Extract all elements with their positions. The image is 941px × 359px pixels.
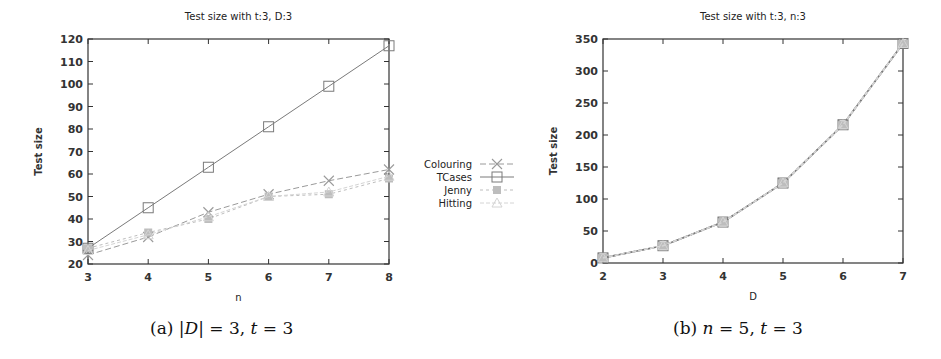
caption-b-n: n bbox=[703, 318, 714, 338]
y-tick-label: 350 bbox=[575, 33, 598, 46]
x-tick-label: 7 bbox=[325, 271, 333, 284]
series-colouring bbox=[598, 38, 908, 262]
legend-label: Jenny bbox=[443, 185, 472, 196]
legend: ColouringTCasesJennyHitting bbox=[424, 159, 514, 209]
y-tick-label: 120 bbox=[60, 33, 83, 46]
x-tick-label: 5 bbox=[779, 270, 787, 283]
filled-square-marker-icon bbox=[493, 186, 501, 194]
series-tcases bbox=[83, 41, 394, 254]
x-tick-label: 3 bbox=[659, 270, 667, 283]
legend-item-jenny: Jenny bbox=[443, 185, 514, 196]
y-tick-label: 100 bbox=[575, 193, 598, 206]
y-tick-label: 50 bbox=[583, 225, 599, 238]
caption-a-D: |D| bbox=[179, 318, 204, 338]
y-tick-label: 300 bbox=[575, 65, 598, 78]
y-tick-label: 0 bbox=[590, 257, 598, 270]
caption-b-label: (b) bbox=[673, 318, 697, 338]
legend-item-colouring: Colouring bbox=[424, 159, 514, 170]
chart-a: Test size with t:3, D:320304050607080901… bbox=[33, 11, 394, 303]
chart-b: Test size with t:3, n:305010015020025030… bbox=[548, 11, 908, 302]
legend-label: Hitting bbox=[438, 198, 472, 209]
legend-label: TCases bbox=[436, 172, 472, 183]
y-tick-label: 100 bbox=[60, 78, 83, 91]
series-jenny bbox=[84, 175, 393, 253]
y-tick-label: 50 bbox=[68, 191, 84, 204]
x-tick-label: 5 bbox=[205, 271, 213, 284]
x-tick-label: 3 bbox=[84, 271, 92, 284]
series-line bbox=[603, 43, 903, 257]
legend-item-hitting: Hitting bbox=[438, 198, 514, 209]
y-axis-label: Test size bbox=[33, 127, 44, 176]
series-line bbox=[603, 43, 903, 257]
series-line bbox=[603, 43, 903, 257]
y-tick-label: 110 bbox=[60, 56, 83, 69]
x-tick-label: 6 bbox=[839, 270, 847, 283]
series-jenny bbox=[599, 39, 907, 261]
series-hitting bbox=[598, 38, 908, 261]
caption-a-label: (a) bbox=[150, 318, 173, 338]
y-tick-label: 70 bbox=[68, 146, 84, 159]
y-tick-label: 200 bbox=[575, 129, 598, 142]
x-tick-label: 4 bbox=[719, 270, 727, 283]
figure-canvas: Test size with t:3, D:320304050607080901… bbox=[0, 0, 941, 359]
series-tcases bbox=[598, 38, 908, 262]
caption-b-eq2: = 3 bbox=[767, 318, 803, 338]
x-tick-label: 4 bbox=[144, 271, 152, 284]
y-axis-label: Test size bbox=[548, 127, 559, 176]
caption-b-eq1: = 5, bbox=[714, 318, 761, 338]
y-tick-label: 30 bbox=[68, 236, 84, 249]
plot-frame bbox=[88, 39, 389, 264]
x-tick-label: 8 bbox=[385, 271, 393, 284]
legend-label: Colouring bbox=[424, 159, 472, 170]
caption-a-eq1: = 3, bbox=[204, 318, 251, 338]
series-hitting bbox=[83, 171, 394, 254]
y-tick-label: 20 bbox=[68, 258, 84, 271]
series-line bbox=[88, 176, 389, 250]
series-colouring bbox=[83, 165, 394, 261]
x-tick-label: 6 bbox=[265, 271, 273, 284]
y-tick-label: 80 bbox=[68, 123, 84, 136]
caption-a: (a) |D| = 3, t = 3 bbox=[150, 318, 293, 338]
y-tick-label: 250 bbox=[575, 97, 598, 110]
caption-a-eq2: = 3 bbox=[257, 318, 293, 338]
x-axis-label: n bbox=[235, 292, 241, 303]
series-line bbox=[88, 170, 389, 256]
chart-title: Test size with t:3, D:3 bbox=[184, 11, 292, 22]
caption-b: (b) n = 5, t = 3 bbox=[673, 318, 803, 338]
y-tick-label: 90 bbox=[68, 101, 84, 114]
chart-title: Test size with t:3, n:3 bbox=[699, 11, 806, 22]
x-axis-label: D bbox=[749, 291, 757, 302]
y-tick-label: 150 bbox=[575, 161, 598, 174]
legend-item-tcases: TCases bbox=[436, 172, 514, 183]
x-tick-label: 7 bbox=[899, 270, 907, 283]
x-tick-label: 2 bbox=[599, 270, 607, 283]
y-tick-label: 40 bbox=[68, 213, 84, 226]
series-line bbox=[603, 43, 903, 257]
plot-frame bbox=[603, 39, 903, 263]
series-line bbox=[88, 179, 389, 249]
y-tick-label: 60 bbox=[68, 168, 84, 181]
series-line bbox=[88, 46, 389, 249]
